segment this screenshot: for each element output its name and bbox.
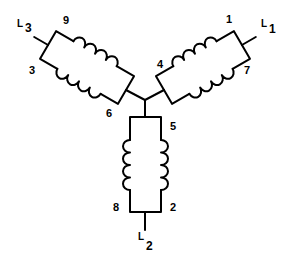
lead-label-2: 2 — [170, 201, 176, 213]
wye-winding-diagram: 9 3 6 1 4 7 5 8 2 L 3 L 1 L 2 — [0, 0, 287, 261]
coil-group-l3 — [23, 17, 138, 110]
terminal-label-l2: L 2 — [138, 231, 153, 253]
svg-text:L: L — [261, 18, 267, 29]
svg-text:L: L — [17, 18, 23, 29]
coil-2-5-right — [161, 140, 168, 190]
coil-8-5-left — [123, 140, 130, 190]
lead-label-1: 1 — [226, 13, 232, 25]
svg-text:L: L — [138, 231, 144, 242]
lead-label-7: 7 — [244, 64, 250, 76]
lead-label-3: 3 — [29, 64, 35, 76]
svg-text:3: 3 — [25, 21, 32, 35]
coil-group-l2 — [123, 117, 168, 230]
lead-label-4: 4 — [157, 58, 164, 70]
lead-label-6: 6 — [106, 107, 112, 119]
terminal-label-l1: L 1 — [261, 18, 276, 36]
diagram-svg: 9 3 6 1 4 7 5 8 2 L 3 L 1 L 2 — [0, 0, 287, 261]
terminal-label-l3: L 3 — [17, 18, 32, 35]
svg-text:2: 2 — [146, 239, 153, 253]
lead-label-9: 9 — [63, 14, 69, 26]
neutral-node — [126, 90, 164, 117]
lead-label-5: 5 — [170, 120, 176, 132]
lead-label-8: 8 — [113, 201, 119, 213]
svg-text:1: 1 — [269, 22, 276, 36]
